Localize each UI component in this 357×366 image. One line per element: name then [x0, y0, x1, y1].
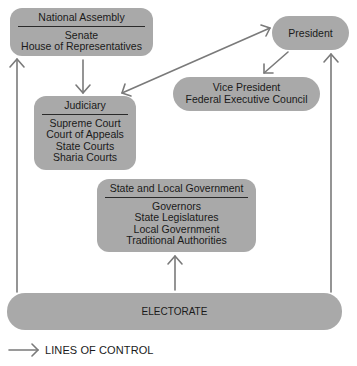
arrow-electorate-to-national-assembly — [10, 59, 24, 292]
node-state-local-government: State and Local Government Governors Sta… — [97, 179, 256, 252]
president-title: President — [288, 27, 332, 39]
node-electorate: ELECTORATE — [7, 293, 342, 330]
arrow-electorate-to-state-local — [168, 256, 182, 290]
electorate-title: ELECTORATE — [142, 306, 208, 317]
legend-label: LINES OF CONTROL — [45, 344, 154, 356]
state-local-item: State Legislatures — [97, 212, 256, 224]
node-judiciary: Judiciary Supreme Court Court of Appeals… — [34, 96, 136, 170]
node-national-assembly: National Assembly Senate House of Repres… — [10, 8, 153, 56]
arrow-president-to-vice-president — [264, 52, 288, 73]
node-president: President — [272, 16, 349, 50]
state-local-title: State and Local Government — [105, 183, 248, 198]
legend: LINES OF CONTROL — [8, 343, 154, 357]
vice-president-item: Vice President — [173, 82, 320, 94]
legend-arrow-icon — [8, 343, 40, 357]
judiciary-item: Court of Appeals — [34, 129, 136, 141]
national-assembly-title: National Assembly — [18, 12, 145, 27]
arrow-electorate-to-president — [324, 54, 338, 292]
arrow-national-assembly-to-judiciary — [76, 60, 90, 93]
state-local-item: Traditional Authorities — [97, 235, 256, 247]
node-vice-president: Vice President Federal Executive Council — [173, 77, 320, 111]
vice-president-item: Federal Executive Council — [173, 94, 320, 106]
national-assembly-item: House of Representatives — [10, 41, 153, 53]
judiciary-item: Sharia Courts — [34, 152, 136, 164]
judiciary-title: Judiciary — [42, 100, 128, 115]
